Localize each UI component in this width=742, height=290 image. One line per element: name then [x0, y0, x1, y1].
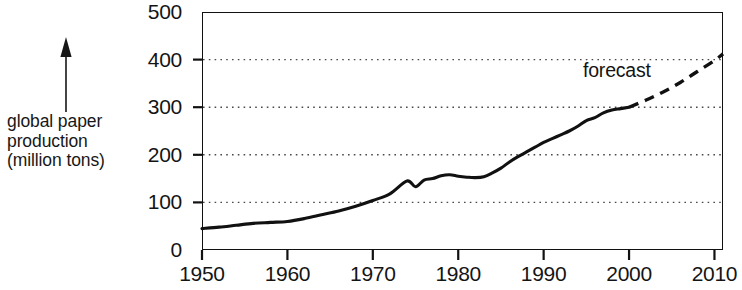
x-axis-ticks — [202, 250, 714, 260]
plot-area — [202, 12, 723, 250]
y-tick-label: 100 — [126, 191, 182, 212]
x-tick-label: 1980 — [421, 263, 495, 284]
x-tick-label: 1960 — [250, 263, 324, 284]
y-tick-label: 0 — [126, 239, 182, 260]
up-arrow-icon — [52, 36, 80, 114]
x-tick-label: 1950 — [165, 263, 239, 284]
x-tick-label: 2010 — [677, 263, 742, 284]
x-tick-label: 1990 — [507, 263, 581, 284]
y-tick-label: 300 — [126, 96, 182, 117]
y-tick-label: 400 — [126, 49, 182, 70]
forecast-annotation-label: forecast — [583, 60, 651, 80]
y-tick-label: 200 — [126, 144, 182, 165]
x-tick-label: 2000 — [592, 263, 666, 284]
y-tick-label: 500 — [126, 1, 182, 22]
y-axis-ticks — [193, 60, 202, 203]
x-tick-label: 1970 — [336, 263, 410, 284]
